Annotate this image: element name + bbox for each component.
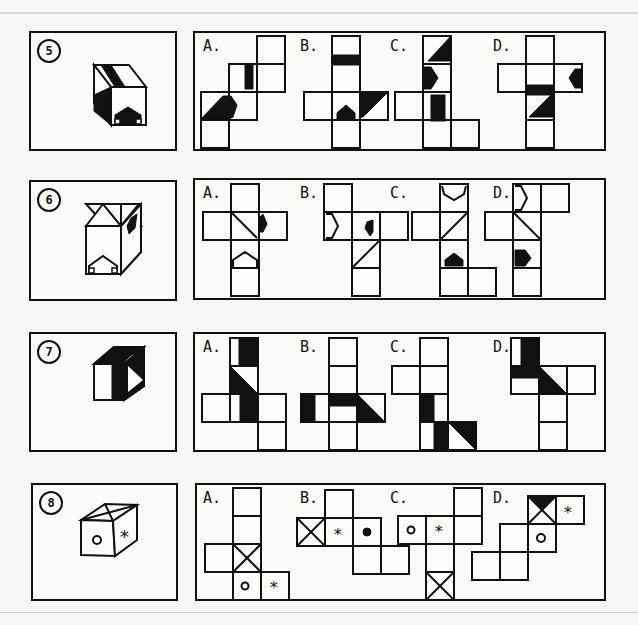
question-8-options-box: A. B. C. D. * * [195,483,606,601]
scan-edge-top [0,12,638,14]
asterisk-symbol: * [119,526,130,547]
cube-figure [31,334,179,454]
question-5-cube-box: 5 [29,31,177,151]
question-6-cube-box: 6 [29,180,177,301]
asterisk-symbol: * [563,503,573,522]
scan-edge-bottom [0,612,638,613]
question-6-options-box: A. B. C. D. [193,178,606,300]
cube-net-option-d[interactable] [195,334,608,454]
question-8-cube-box: 8 * [31,483,178,601]
question-7-cube-box: 7 [29,332,177,452]
cube-figure [31,182,179,303]
cube-net-option-d[interactable] [195,180,608,302]
cube-net-option-d[interactable]: * [197,485,608,603]
question-7-options-box: A. B. C. D. [193,332,606,452]
cube-figure [31,33,179,153]
cube-net-option-d[interactable] [195,33,608,153]
question-5-options-box: A. B. C. D. [193,31,606,151]
cube-figure: * [33,485,180,603]
